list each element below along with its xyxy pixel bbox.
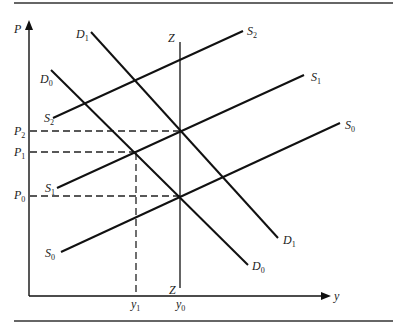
- label-p2: P2: [13, 124, 25, 140]
- x-axis-label: y: [333, 289, 340, 303]
- label-d1-end: D1: [282, 233, 296, 249]
- supply-curve-s0: [61, 123, 340, 252]
- supply-curve-s2: [53, 31, 243, 118]
- label-d1-top: D1: [75, 27, 89, 43]
- x-axis-arrow-icon: [321, 292, 331, 300]
- demand-curve-d0: [51, 70, 248, 265]
- label-s1-end: S1: [311, 70, 321, 86]
- y-axis-arrow-icon: [25, 20, 33, 30]
- label-s1-start: S1: [45, 181, 55, 197]
- label-y1: y1: [130, 297, 140, 313]
- supply-demand-diagram: P y D1 D0 Z S2 S1 S0 S2 S1 S0 D1 D0 Z P2…: [0, 0, 401, 327]
- label-z-bottom: Z: [169, 283, 176, 297]
- label-s2-end: S2: [247, 24, 257, 40]
- label-d0-top: D0: [39, 72, 53, 88]
- label-s0-end: S0: [345, 118, 355, 134]
- label-y0: y0: [175, 297, 185, 313]
- label-s2-start: S2: [44, 111, 54, 127]
- label-d0-end: D0: [251, 259, 265, 275]
- label-z-top: Z: [168, 31, 175, 45]
- y-axis-label: P: [13, 22, 22, 36]
- label-p0: P0: [13, 188, 25, 204]
- label-s0-start: S0: [45, 246, 55, 262]
- demand-curve-d1: [91, 32, 278, 238]
- label-p1: P1: [13, 145, 25, 161]
